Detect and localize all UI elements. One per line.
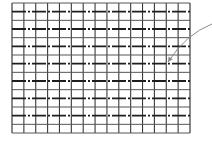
arrowhead-icon [168,56,173,62]
grid-lines [12,3,190,133]
grid-diagram [0,0,212,142]
grid-canvas [0,0,212,142]
